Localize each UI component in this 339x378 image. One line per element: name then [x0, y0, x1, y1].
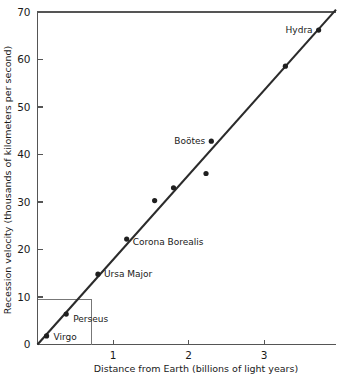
data-point-label-perseus: Perseus [73, 314, 108, 324]
y-tick-label: 20 [17, 243, 30, 255]
data-point-virgo [44, 333, 49, 338]
chart-background [0, 0, 339, 378]
y-tick-label: 40 [17, 148, 30, 160]
x-tick-label: 2 [185, 349, 192, 361]
y-tick-label: 30 [17, 196, 30, 208]
data-point-corona-borealis [124, 236, 129, 241]
data-point-label-hydra: Hydra [286, 25, 313, 35]
y-tick-label: 60 [17, 53, 30, 65]
data-point-point-5 [152, 198, 157, 203]
data-point-perseus [64, 312, 69, 317]
data-point-point-9 [283, 64, 288, 69]
y-tick-label: 0 [24, 338, 31, 350]
data-point-point-8 [203, 171, 208, 176]
data-point-label-bootes: Boötes [174, 136, 205, 146]
data-point-label-virgo: Virgo [54, 332, 78, 342]
data-point-point-6 [171, 185, 176, 190]
data-point-bootes [209, 139, 214, 144]
data-point-hydra [316, 27, 321, 32]
data-point-ursa-major [95, 272, 100, 277]
y-tick-label: 50 [17, 101, 30, 113]
x-tick-label: 1 [110, 349, 117, 361]
data-point-label-ursa-major: Ursa Major [104, 269, 153, 279]
x-axis-title: Distance from Earth (billions of light y… [94, 363, 298, 374]
y-axis-title: Recession velocity (thousands of kilomet… [2, 46, 13, 314]
chart-canvas: 010203040506070123 VirgoPerseusUrsa Majo… [0, 0, 339, 378]
data-point-label-corona-borealis: Corona Borealis [133, 237, 204, 247]
x-tick-label: 3 [261, 349, 268, 361]
hubble-diagram-chart: 010203040506070123 VirgoPerseusUrsa Majo… [0, 0, 339, 378]
y-tick-label: 70 [17, 6, 30, 18]
y-tick-label: 10 [17, 291, 30, 303]
